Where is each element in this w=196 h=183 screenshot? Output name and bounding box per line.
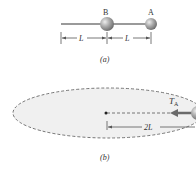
dim-right-label: L <box>124 34 130 43</box>
arrowhead <box>146 37 150 40</box>
arrowhead <box>102 37 106 40</box>
panel-a: B A L L (a) <box>61 8 157 64</box>
arrowhead <box>108 37 112 40</box>
ball-b-label: B <box>103 8 108 17</box>
caption-b: (b) <box>100 153 110 162</box>
panel-b: TA 2L (b) <box>13 88 196 162</box>
dim-left-label: L <box>78 34 84 43</box>
ball-b <box>100 17 114 31</box>
radius-label: 2L <box>144 123 153 132</box>
arrowhead <box>62 37 66 40</box>
figure-canvas: B A L L (a) TA 2L (b) <box>0 0 196 183</box>
caption-a: (a) <box>100 55 110 64</box>
ball-a-label: A <box>148 8 154 17</box>
ball-a <box>145 18 157 30</box>
